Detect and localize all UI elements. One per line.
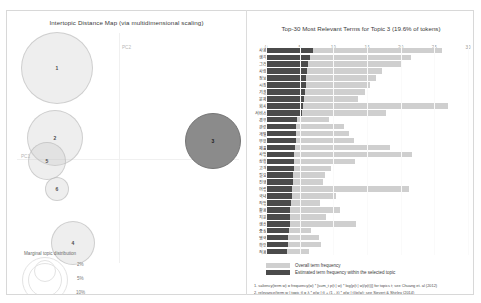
gridline-15	[367, 45, 368, 255]
term-label[interactable]: 사람	[248, 68, 267, 74]
topic-bubble-label-3: 3	[212, 138, 215, 144]
term-label[interactable]: 회사	[248, 103, 267, 109]
marginal-pct-10: 10%	[76, 290, 85, 294]
term-row[interactable]: 시장	[248, 82, 474, 89]
term-row[interactable]: 어렵	[248, 186, 474, 193]
bar-topic-frequency	[266, 124, 296, 130]
term-label[interactable]: 지원	[248, 214, 267, 220]
term-label[interactable]: 적용	[248, 249, 267, 255]
bar-topic-frequency	[266, 138, 296, 144]
term-label[interactable]: 사용	[248, 47, 267, 53]
bar-topic-frequency	[266, 200, 291, 206]
term-label[interactable]: 어렵	[248, 186, 267, 192]
bar-topic-frequency	[266, 61, 308, 67]
term-row[interactable]: 확인	[248, 241, 474, 248]
term-row[interactable]: 지원	[248, 214, 474, 221]
term-label[interactable]: 서비스	[248, 110, 267, 116]
term-label[interactable]: 활용	[248, 207, 267, 213]
bar-topic-frequency	[266, 214, 290, 220]
term-row[interactable]: 회사	[248, 103, 474, 110]
term-label[interactable]: 문제	[248, 96, 267, 102]
term-row[interactable]: 사업	[248, 151, 474, 158]
term-label[interactable]: 중심	[248, 228, 267, 234]
bar-topic-frequency	[266, 96, 304, 102]
term-row[interactable]: 문제	[248, 96, 474, 103]
term-row[interactable]: 경우	[248, 116, 474, 123]
term-row[interactable]: 적용	[248, 248, 474, 255]
term-label[interactable]: 기술	[248, 89, 267, 95]
bar-topic-frequency	[266, 221, 290, 227]
term-row[interactable]: 그러	[248, 61, 474, 68]
term-row[interactable]: 상황	[248, 158, 474, 165]
gridline-10	[333, 45, 334, 255]
ldavis-visualization: Intertopic Distance Map (via multidimens…	[0, 0, 481, 303]
term-row[interactable]: 생각	[248, 54, 474, 61]
gridline-25	[434, 45, 435, 255]
term-label[interactable]: 필요	[248, 172, 267, 178]
term-label[interactable]: 시장	[248, 82, 267, 88]
term-row[interactable]: 생산	[248, 220, 474, 227]
barchart-legend: Overall term frequency Estimated term fr…	[266, 263, 395, 277]
bar-topic-frequency	[266, 172, 293, 178]
term-label[interactable]: 생각	[248, 54, 267, 60]
term-label[interactable]: 작업	[248, 200, 267, 206]
topic-bubble-label-1: 1	[56, 65, 59, 71]
bar-topic-frequency	[266, 152, 294, 158]
term-row[interactable]: 중심	[248, 227, 474, 234]
term-label[interactable]: 정보	[248, 75, 267, 81]
panel-divider	[246, 10, 247, 295]
term-row[interactable]: 국내	[248, 193, 474, 200]
bar-topic-frequency	[266, 242, 288, 248]
bar-topic-frequency	[266, 166, 294, 172]
term-row[interactable]: 사용	[248, 47, 474, 54]
term-label[interactable]: 관련	[248, 124, 267, 130]
term-label[interactable]: 생산	[248, 221, 267, 227]
barchart-title: Top-30 Most Relevant Terms for Topic 3 (…	[248, 25, 474, 32]
term-label[interactable]: 영역	[248, 235, 267, 241]
term-row[interactable]: 기술	[248, 89, 474, 96]
term-label[interactable]: 개발	[248, 131, 267, 137]
term-row[interactable]: 사람	[248, 68, 474, 75]
map-axis-vertical	[119, 33, 120, 263]
topic-bubble-label-5: 5	[46, 158, 49, 164]
bar-topic-frequency	[266, 131, 296, 137]
term-row[interactable]: 개발	[248, 130, 474, 137]
term-row[interactable]: 제품	[248, 144, 474, 151]
term-label[interactable]: 확인	[248, 242, 267, 248]
legend-overall: Overall term frequency	[266, 263, 395, 268]
term-row[interactable]: 필요	[248, 172, 474, 179]
bar-topic-frequency	[266, 228, 289, 234]
term-row[interactable]: 진행	[248, 179, 474, 186]
topic-bubble-label-4: 4	[72, 240, 75, 246]
term-label[interactable]: 고객	[248, 165, 267, 171]
term-row[interactable]: 고객	[248, 165, 474, 172]
bar-topic-frequency	[266, 159, 294, 165]
term-row[interactable]: 활용	[248, 207, 474, 214]
marginal-pct-2: 2%	[77, 262, 84, 267]
bar-topic-frequency	[266, 68, 307, 74]
term-label[interactable]: 제품	[248, 145, 267, 151]
bar-topic-frequency	[266, 186, 292, 192]
term-label[interactable]: 부분	[248, 138, 267, 144]
top-terms-barchart: Top-30 Most Relevant Terms for Topic 3 (…	[248, 11, 474, 294]
bar-topic-frequency	[266, 55, 310, 61]
term-row[interactable]: 관련	[248, 123, 474, 130]
bar-topic-frequency	[266, 117, 297, 123]
term-label[interactable]: 국내	[248, 193, 267, 199]
term-label[interactable]: 경우	[248, 117, 267, 123]
bar-topic-frequency	[266, 207, 290, 213]
term-row[interactable]: 영역	[248, 234, 474, 241]
marginal-ring-2	[34, 260, 56, 282]
term-label[interactable]: 진행	[248, 179, 267, 185]
term-row[interactable]: 부분	[248, 137, 474, 144]
marginal-distribution-label: Marginal topic distribution	[24, 251, 76, 256]
term-row[interactable]: 작업	[248, 200, 474, 207]
term-row[interactable]: 서비스	[248, 109, 474, 116]
gridline-0	[266, 45, 267, 255]
term-row[interactable]: 정보	[248, 75, 474, 82]
topic-bubble-label-2: 2	[54, 135, 57, 141]
gridline-5	[300, 45, 301, 255]
term-label[interactable]: 그러	[248, 61, 267, 67]
term-label[interactable]: 상황	[248, 158, 267, 164]
term-label[interactable]: 사업	[248, 151, 267, 157]
